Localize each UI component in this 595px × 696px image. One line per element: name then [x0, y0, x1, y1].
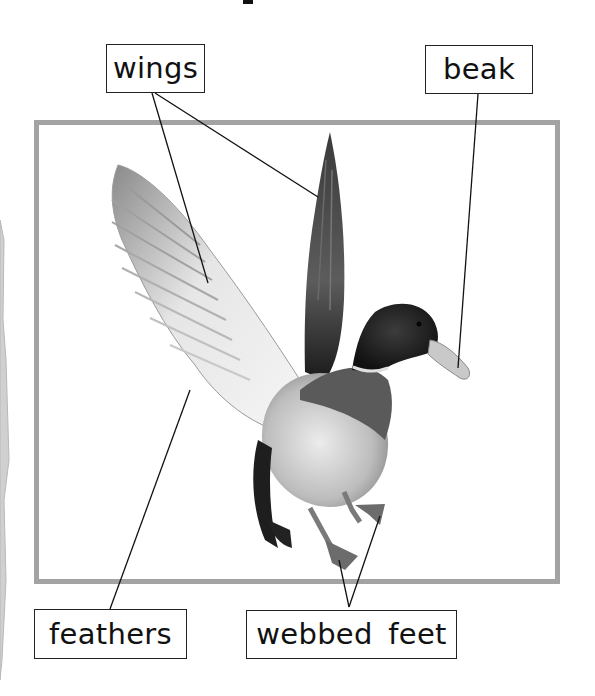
label-wings: wings	[106, 44, 205, 93]
duck-illustration	[0, 0, 595, 696]
label-webbed-feet: webbed feet	[246, 610, 457, 659]
label-beak: beak	[425, 45, 533, 94]
label-feathers: feathers	[34, 609, 187, 659]
right-wing	[305, 132, 345, 380]
duck-head	[352, 304, 470, 380]
left-wing	[112, 165, 300, 430]
